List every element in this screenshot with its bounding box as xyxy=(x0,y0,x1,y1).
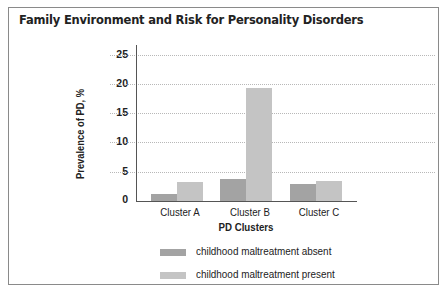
y-tick-25: 25 xyxy=(108,48,128,60)
gridline-15 xyxy=(110,113,435,114)
y-tick-15: 15 xyxy=(108,106,128,118)
x-tick-cluster-b: Cluster B xyxy=(219,206,281,218)
chart-frame: Family Environment and Risk for Personal… xyxy=(8,7,439,285)
y-tick-5: 5 xyxy=(108,165,128,177)
y-tick-10: 10 xyxy=(108,135,128,147)
bar-cluster-c-present xyxy=(316,181,342,201)
bar-cluster-b-present xyxy=(246,88,272,201)
bar-cluster-a-present xyxy=(177,182,203,201)
legend-label-absent: childhood maltreatment absent xyxy=(196,245,331,257)
bar-cluster-a-absent xyxy=(151,194,177,201)
y-tick-0: 0 xyxy=(108,193,128,205)
y-axis xyxy=(136,45,137,202)
x-axis xyxy=(136,201,357,202)
x-axis-label: PD Clusters xyxy=(211,221,281,233)
legend-swatch-absent xyxy=(160,249,186,256)
y-axis-label: Prevalence of PD, % xyxy=(74,83,86,185)
gridline-20 xyxy=(110,84,435,85)
gridline-5 xyxy=(110,172,435,173)
legend-label-present: childhood maltreatment present xyxy=(196,268,335,280)
bar-cluster-c-absent xyxy=(290,184,316,201)
chart-title: Family Environment and Risk for Personal… xyxy=(19,13,363,27)
x-tick-cluster-a: Cluster A xyxy=(149,206,211,218)
y-tick-20: 20 xyxy=(108,77,128,89)
x-tick-cluster-c: Cluster C xyxy=(288,206,350,218)
legend-swatch-present xyxy=(160,272,186,279)
bar-cluster-b-absent xyxy=(220,179,246,201)
gridline-25 xyxy=(110,55,435,56)
gridline-10 xyxy=(110,142,435,143)
